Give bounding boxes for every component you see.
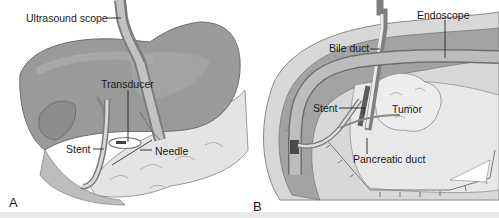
bottom-divider: [0, 212, 499, 218]
label-endoscope: Endoscope: [417, 10, 470, 21]
label-stent-a: Stent: [66, 144, 91, 155]
medical-illustration: Ultrasound scope Transducer Stent Needle…: [0, 0, 499, 212]
label-pancreatic-duct: Pancreatic duct: [353, 154, 425, 165]
label-stent-b: Stent: [313, 103, 338, 114]
panel-letter-a: A: [9, 196, 18, 209]
label-tumor: Tumor: [392, 104, 422, 115]
panel-a-illustration: [0, 0, 250, 212]
panel-a: Ultrasound scope Transducer Stent Needle…: [0, 0, 250, 212]
panel-b: Endoscope Bile duct Stent Tumor Pancreat…: [250, 0, 499, 212]
label-ultrasound-scope: Ultrasound scope: [26, 13, 108, 24]
label-transducer: Transducer: [101, 79, 154, 90]
label-bile-duct: Bile duct: [329, 43, 369, 54]
label-needle: Needle: [155, 146, 188, 157]
panel-b-illustration: [250, 0, 499, 212]
